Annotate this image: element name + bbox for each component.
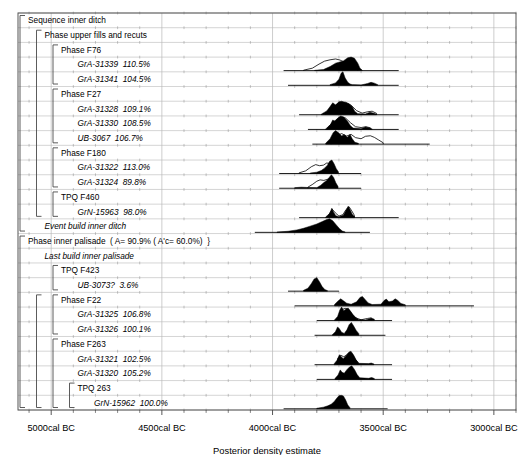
- row-label-grn-15963: GrN-15963 98.0%: [78, 207, 148, 217]
- row-label-gra-31339: GrA-31339 110.5%: [78, 59, 151, 69]
- row-label-phase-f180: Phase F180: [61, 148, 106, 158]
- row-label-tpq-f460: TPQ F460: [61, 192, 100, 202]
- row-label-tpq-263: TPQ 263: [78, 383, 112, 393]
- axis-tick-label: 5000cal BC: [27, 423, 75, 433]
- row-label-phase-f76: Phase F76: [61, 45, 102, 55]
- row-label-ub-3067: UB-3067 106.7%: [78, 133, 144, 143]
- row-label-phase-upper-fills-and-recuts: Phase upper fills and recuts: [45, 30, 147, 40]
- row-label-event-build-inner-ditch: Event build inner ditch: [45, 221, 127, 231]
- row-label-phase-f22: Phase F22: [61, 295, 102, 305]
- axis-tick-label: 3000cal BC: [470, 423, 518, 433]
- row-label-gra-31330: GrA-31330 108.5%: [78, 118, 152, 128]
- row-label-gra-31321: GrA-31321 102.5%: [78, 354, 152, 364]
- row-label-gra-31326: GrA-31326 100.1%: [78, 324, 152, 334]
- row-label-gra-31325: GrA-31325 106.8%: [78, 309, 152, 319]
- row-label-phase-f27: Phase F27: [61, 89, 102, 99]
- row-label-tpq-f423: TPQ F423: [61, 265, 100, 275]
- oxcal-posterior-density-chart: Sequence inner ditchPhase upper fills an…: [0, 0, 525, 455]
- row-label-gra-31341: GrA-31341 104.5%: [78, 74, 152, 84]
- row-label-gra-31320: GrA-31320 105.2%: [78, 368, 152, 378]
- row-label-gra-31324: GrA-31324 89.8%: [78, 177, 147, 187]
- chart-canvas: Sequence inner ditchPhase upper fills an…: [0, 0, 525, 455]
- row-label-sequence-inner-ditch: Sequence inner ditch: [28, 15, 106, 25]
- row-label-last-build-inner-palisade: Last build inner palisade: [45, 251, 135, 261]
- row-label-phase-f263: Phase F263: [61, 339, 106, 349]
- row-label-phase-inner-palisade: Phase inner palisade ( A= 90.9% ( A'c= 6…: [28, 236, 210, 246]
- axis-tick-label: 4000cal BC: [249, 423, 297, 433]
- row-label-gra-31322: GrA-31322 113.0%: [78, 162, 151, 172]
- axis-tick-label: 4500cal BC: [138, 423, 186, 433]
- x-axis-title: Posterior density estimate: [213, 445, 321, 455]
- row-label-grn-15962: GrN-15962 100.0%: [94, 398, 168, 408]
- axis-tick-label: 3500cal BC: [359, 423, 407, 433]
- row-label-ub-3073: UB-3073? 3.6%: [78, 280, 140, 290]
- row-label-gra-31328: GrA-31328 109.1%: [78, 104, 152, 114]
